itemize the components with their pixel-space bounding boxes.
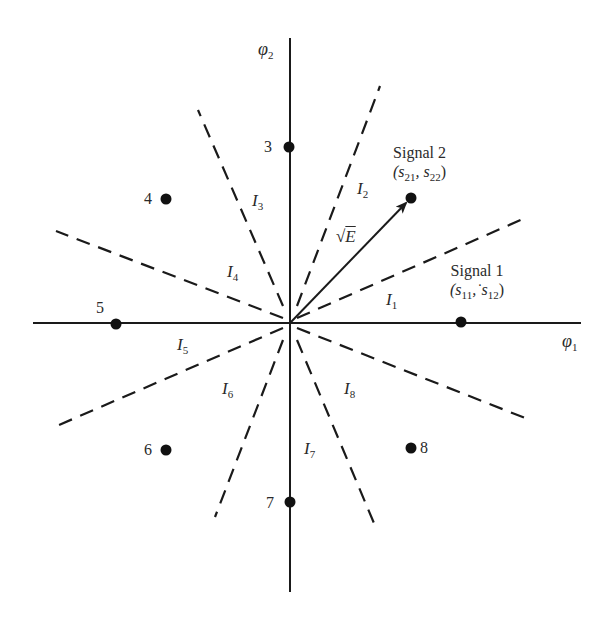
boundary-5-6: [52, 328, 283, 428]
constellation-diagram: [0, 0, 612, 620]
region-label-5: I5: [177, 336, 188, 356]
signal-7-label: 7: [266, 495, 274, 511]
phi2-axis-label: φ2: [258, 40, 273, 61]
signal-5-label: 5: [96, 300, 104, 316]
signal-1-label: Signal 1 (s11,˙s12): [450, 263, 504, 301]
signal-1-name: Signal 1: [450, 263, 504, 279]
signal-3-label: 3: [264, 139, 272, 155]
signal-2-coords: (s21, s22): [393, 164, 446, 183]
signal-6-label: 6: [144, 442, 152, 458]
signal-point-8: [406, 443, 417, 454]
signal-2-name: Signal 2: [393, 145, 446, 161]
region-label-1: I1: [386, 291, 397, 311]
boundary-8-1: [297, 328, 525, 418]
region-label-8: I8: [344, 380, 355, 400]
signal-point-5: [111, 319, 122, 330]
signal-1-coords: (s11,˙s12): [450, 282, 504, 301]
signal-point-6: [161, 445, 172, 456]
region-label-3: I3: [252, 192, 263, 212]
energy-label: √E: [336, 228, 356, 245]
region-label-4: I4: [227, 263, 238, 283]
signal-point-3: [284, 142, 295, 153]
boundary-6-7: [215, 340, 283, 517]
region-label-2: I2: [357, 180, 368, 200]
region-label-7: I7: [304, 440, 315, 460]
signal-point-1: [456, 317, 467, 328]
signal-point-4: [161, 194, 172, 205]
boundary-7-8: [297, 340, 376, 528]
signal-8-label: 8: [420, 440, 428, 456]
boundary-4-5: [56, 231, 283, 318]
region-label-6: I6: [222, 380, 233, 400]
signal-point-7: [285, 497, 296, 508]
signal-2-label: Signal 2 (s21, s22): [393, 145, 446, 183]
signal-point-2: [406, 193, 417, 204]
signal-4-label: 4: [144, 191, 152, 207]
phi1-axis-label: φ1: [562, 332, 577, 353]
